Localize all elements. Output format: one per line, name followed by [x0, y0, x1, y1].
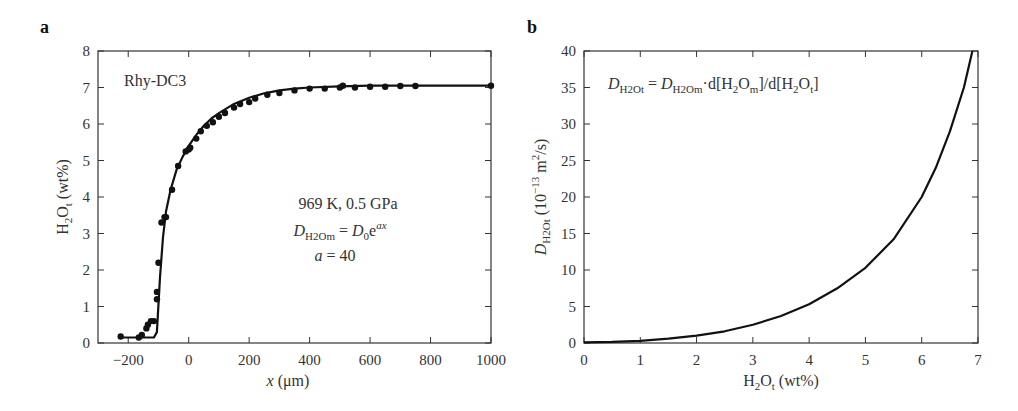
panel-a: a −20002004006008001000012345678 Rhy-DC3…: [40, 17, 506, 390]
x-tick-label: −200: [113, 352, 144, 368]
equation-label-b: DH2Ot = DH2Om·d[H2Om]/d[H2Ot]: [607, 75, 819, 95]
equation-label: DH2Om = D0eax: [292, 219, 386, 242]
data-point: [322, 85, 328, 91]
y-tick-label: 4: [83, 189, 91, 205]
data-point: [382, 84, 388, 90]
data-point: [198, 128, 204, 134]
figure: a −20002004006008001000012345678 Rhy-DC3…: [0, 0, 1018, 411]
data-point: [291, 87, 297, 93]
x-tick-label: 7: [974, 352, 982, 368]
x-tick-label: 1: [637, 352, 645, 368]
data-point: [117, 333, 123, 339]
panel-a-label: a: [40, 17, 49, 37]
y-tick-label: 1: [83, 299, 91, 315]
y-tick-label: 6: [83, 116, 91, 132]
y-tick-label: 0: [569, 335, 577, 351]
data-point: [367, 84, 373, 90]
y-tick-label: 3: [83, 226, 91, 242]
x-tick-label: 1000: [476, 352, 506, 368]
x-tick-label: 600: [359, 352, 382, 368]
x-tick-label: 0: [185, 352, 193, 368]
data-point: [231, 104, 237, 110]
sample-label: Rhy-DC3: [124, 72, 186, 90]
x-tick-label: 3: [749, 352, 757, 368]
y-tick-label: 0: [83, 335, 91, 351]
data-point: [163, 214, 169, 220]
panel-b: b 012345670510152025303540 DH2Ot = DH2Om…: [527, 17, 982, 392]
data-point: [175, 163, 181, 169]
data-point: [154, 296, 160, 302]
y-tick-label: 15: [561, 226, 576, 242]
y-axis-title-a: H2Ot (wt%): [54, 159, 74, 235]
data-point: [204, 123, 210, 129]
data-point: [155, 260, 161, 266]
y-tick-label: 5: [83, 153, 91, 169]
y-tick-label: 30: [561, 116, 576, 132]
data-point: [412, 83, 418, 89]
y-axis-title-b: DH2Ot (10−13 m2/s): [529, 139, 552, 257]
x-tick-label: 4: [805, 352, 813, 368]
data-point: [216, 114, 222, 120]
y-tick-label: 10: [561, 262, 576, 278]
data-point: [252, 95, 258, 101]
data-point: [187, 145, 193, 151]
data-point: [158, 219, 164, 225]
param-label: a = 40: [314, 247, 355, 264]
x-tick-label: 400: [298, 352, 321, 368]
y-tick-label: 40: [561, 43, 576, 59]
data-point: [139, 332, 145, 338]
y-tick-label: 25: [561, 153, 576, 169]
y-tick-label: 35: [561, 80, 576, 96]
y-tick-label: 20: [561, 189, 576, 205]
data-point: [264, 92, 270, 98]
data-point: [488, 82, 494, 88]
x-axis-title-b: H2Ot (wt%): [743, 372, 819, 392]
x-tick-label: 800: [419, 352, 442, 368]
data-point: [276, 90, 282, 96]
data-point: [210, 119, 216, 125]
x-axis-title-a: x (μm): [266, 372, 310, 390]
y-tick-label: 8: [83, 43, 91, 59]
data-point: [222, 110, 228, 116]
y-tick-label: 7: [83, 80, 91, 96]
x-tick-label: 0: [580, 352, 588, 368]
panel-b-label: b: [527, 17, 537, 37]
data-point: [237, 101, 243, 107]
data-point: [154, 289, 160, 295]
data-point: [246, 99, 252, 105]
data-point: [151, 318, 157, 324]
x-tick-label: 6: [918, 352, 926, 368]
data-point: [306, 85, 312, 91]
data-point: [397, 83, 403, 89]
condition-label: 969 K, 0.5 GPa: [298, 195, 397, 212]
y-tick-label: 5: [569, 299, 577, 315]
x-tick-label: 5: [862, 352, 870, 368]
x-tick-label: 2: [693, 352, 701, 368]
data-point: [352, 84, 358, 90]
y-tick-label: 2: [83, 262, 91, 278]
data-point: [169, 187, 175, 193]
data-point: [193, 135, 199, 141]
data-point: [340, 82, 346, 88]
x-tick-label: 200: [238, 352, 261, 368]
